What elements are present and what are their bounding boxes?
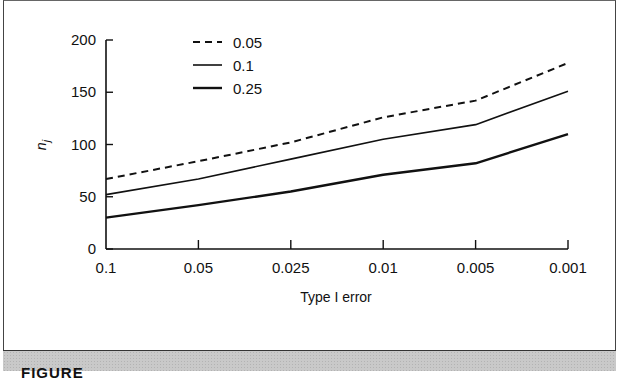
legend-label: 0.05 [233,34,262,51]
y-tick-label: 100 [71,136,96,153]
x-axis-ticks: 0.10.050.0250.010.0050.001 [96,240,587,276]
y-axis-title-main: n [33,142,49,150]
x-tick-label: 0.01 [369,259,398,276]
x-tick-label: 0.1 [96,259,117,276]
caption-band: FIGURE [3,350,616,371]
y-axis-title: nj [33,139,52,150]
data-lines [106,63,568,218]
x-axis-title: Type I error [300,289,372,305]
x-tick-label: 0.001 [549,259,587,276]
axes [106,40,568,249]
legend: 0.050.10.25 [193,34,262,97]
series-line-0.1 [106,91,568,194]
line-chart: 050100150200 0.10.050.0250.010.0050.001 … [0,0,619,350]
caption-label: FIGURE [21,364,84,381]
x-tick-label: 0.05 [184,259,213,276]
y-tick-label: 0 [88,240,96,257]
legend-label: 0.25 [233,80,262,97]
x-tick-label: 0.025 [272,259,310,276]
series-line-0.25 [106,134,568,218]
y-tick-label: 150 [71,83,96,100]
legend-label: 0.1 [233,57,254,74]
y-tick-label: 50 [79,188,96,205]
series-line-0.05 [106,63,568,179]
x-tick-label: 0.005 [457,259,495,276]
svg-text:nj: nj [33,139,52,150]
y-tick-label: 200 [71,31,96,48]
